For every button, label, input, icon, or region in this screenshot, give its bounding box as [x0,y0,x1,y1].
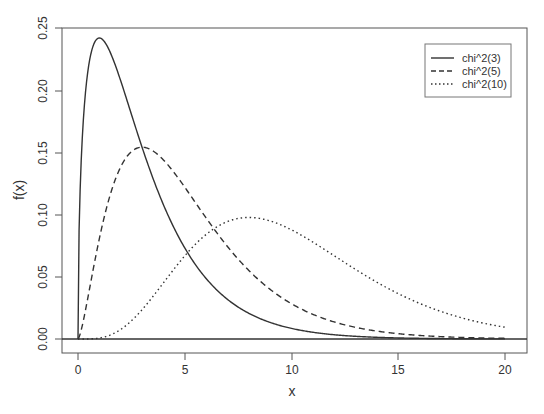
legend-label: chi^2(3) [462,52,501,64]
y-tick-label: 0.05 [36,265,50,289]
x-tick-label: 0 [75,363,82,377]
y-axis-label: f(x) [11,180,27,200]
y-tick-label: 0.00 [36,327,50,351]
x-tick-label: 20 [498,363,512,377]
legend: chi^2(3) chi^2(5) chi^2(10) [425,44,511,97]
y-tick-label: 0.25 [36,16,50,40]
legend-label: chi^2(5) [462,65,501,77]
x-axis [78,353,505,360]
chi-squared-density-chart: 0.00 0.05 0.10 0.15 0.20 0.25 0 5 10 15 … [0,0,544,414]
x-axis-label: x [289,383,296,399]
x-tick-label: 5 [182,363,189,377]
x-tick-label: 10 [285,363,299,377]
y-axis [55,28,62,339]
x-tick-label: 15 [391,363,405,377]
legend-label: chi^2(10) [462,78,507,90]
y-tick-label: 0.20 [36,79,50,103]
y-tick-label: 0.15 [36,141,50,165]
series-chi2-10-line [78,217,505,339]
y-tick-label: 0.10 [36,203,50,227]
